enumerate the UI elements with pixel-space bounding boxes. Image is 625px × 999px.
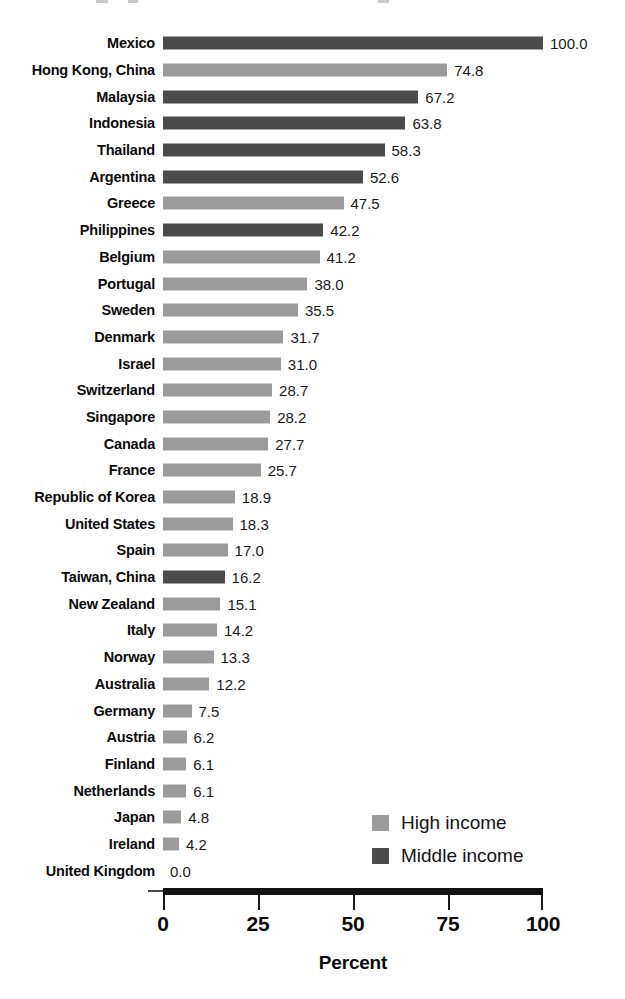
bar-high-income <box>163 437 268 450</box>
bar-row-label: Spain <box>117 542 155 558</box>
bar-row: Taiwan, China16.2 <box>0 564 625 591</box>
bar-high-income <box>163 197 344 210</box>
bar-row-label: Australia <box>95 676 155 692</box>
bar-value-label: 15.1 <box>227 595 256 612</box>
bar-value-label: 74.8 <box>454 62 483 79</box>
bar-value-label: 63.8 <box>412 115 441 132</box>
bar-value-label: 28.2 <box>277 408 306 425</box>
bar-row-label: Denmark <box>94 329 155 345</box>
bar-row-label: United Kingdom <box>46 863 155 879</box>
bar-row: Austria6.2 <box>0 724 625 751</box>
bar-high-income <box>163 357 281 370</box>
bar-row-label: Switzerland <box>77 382 155 398</box>
bar-row-label: Netherlands <box>73 783 155 799</box>
bar-row: Switzerland28.7 <box>0 377 625 404</box>
bar-row: United States18.3 <box>0 510 625 537</box>
bar-track <box>163 304 543 317</box>
bar-row: Australia12.2 <box>0 671 625 698</box>
bar-row-label: Austria <box>106 729 155 745</box>
bar-track <box>163 491 543 504</box>
bar-middle-income <box>163 117 405 130</box>
bar-row: Republic of Korea18.9 <box>0 484 625 511</box>
bar-row: Thailand58.3 <box>0 137 625 164</box>
chart-legend: High incomeMiddle income <box>372 806 612 872</box>
bar-row-label: Norway <box>104 649 155 665</box>
bar-row: Mexico100.0 <box>0 30 625 57</box>
bar-track <box>163 90 543 103</box>
bar-high-income <box>163 624 217 637</box>
bar-high-income <box>163 677 209 690</box>
bar-high-income <box>163 250 320 263</box>
axis-tick-label: 50 <box>342 912 365 936</box>
bar-track <box>163 784 543 797</box>
legend-item-high-income: High income <box>372 806 612 839</box>
bar-track <box>163 330 543 343</box>
bar-value-label: 0.0 <box>170 862 191 879</box>
bar-row-label: Ireland <box>109 836 155 852</box>
bar-value-label: 6.1 <box>193 755 214 772</box>
bar-track <box>163 144 543 157</box>
bar-track <box>163 410 543 423</box>
legend-label: Middle income <box>401 845 524 867</box>
bar-value-label: 47.5 <box>351 195 380 212</box>
bar-high-income <box>163 410 270 423</box>
bar-value-label: 12.2 <box>216 675 245 692</box>
bar-row: Norway13.3 <box>0 644 625 671</box>
bar-row-label: Hong Kong, China <box>32 62 155 78</box>
bar-high-income <box>163 464 261 477</box>
bar-track <box>163 37 543 50</box>
bar-row-label: Portugal <box>98 276 155 292</box>
bar-row: Italy14.2 <box>0 617 625 644</box>
bar-row-label: Argentina <box>89 169 155 185</box>
bar-track <box>163 517 543 530</box>
bar-value-label: 58.3 <box>392 142 421 159</box>
bar-row-label: Italy <box>127 622 155 638</box>
bar-value-label: 41.2 <box>327 248 356 265</box>
axis-title-percent: Percent <box>163 952 543 974</box>
bar-high-income <box>163 277 307 290</box>
bar-row: Portugal38.0 <box>0 270 625 297</box>
bar-value-label: 6.1 <box>193 782 214 799</box>
bar-middle-income <box>163 170 363 183</box>
bar-high-income <box>163 784 186 797</box>
axis-tick-label: 0 <box>157 912 168 936</box>
axis-tick-label: 75 <box>437 912 460 936</box>
bar-row: Belgium41.2 <box>0 244 625 271</box>
bar-track <box>163 437 543 450</box>
bar-row: Israel31.0 <box>0 350 625 377</box>
axis-tick <box>353 895 355 910</box>
bar-track <box>163 64 543 77</box>
bar-track <box>163 117 543 130</box>
bar-row: Greece47.5 <box>0 190 625 217</box>
bar-row: Spain17.0 <box>0 537 625 564</box>
bar-row-label: Thailand <box>97 142 155 158</box>
bar-value-label: 31.0 <box>288 355 317 372</box>
bar-row-label: Mexico <box>107 35 155 51</box>
bar-value-label: 17.0 <box>235 542 264 559</box>
bar-track <box>163 357 543 370</box>
legend-label: High income <box>401 812 507 834</box>
bar-middle-income <box>163 571 225 584</box>
bar-high-income <box>163 304 298 317</box>
bar-track <box>163 757 543 770</box>
cropped-header-artifact <box>0 0 625 6</box>
bar-row: Denmark31.7 <box>0 324 625 351</box>
axis-tick <box>163 895 165 910</box>
bar-track <box>163 624 543 637</box>
bar-value-label: 31.7 <box>290 328 319 345</box>
bar-row: Philippines42.2 <box>0 217 625 244</box>
bar-high-income <box>163 757 186 770</box>
bar-value-label: 13.3 <box>221 649 250 666</box>
bar-rows: Mexico100.0Hong Kong, China74.8Malaysia6… <box>0 30 625 884</box>
bar-row-label: Greece <box>107 195 155 211</box>
legend-item-middle-income: Middle income <box>372 839 612 872</box>
bar-high-income <box>163 384 272 397</box>
bar-value-label: 16.2 <box>232 569 261 586</box>
bar-track <box>163 731 543 744</box>
bar-high-income <box>163 704 192 717</box>
bar-value-label: 35.5 <box>305 302 334 319</box>
bar-row: Singapore28.2 <box>0 404 625 431</box>
bar-high-income <box>163 544 228 557</box>
bar-value-label: 25.7 <box>268 462 297 479</box>
bar-row: Canada27.7 <box>0 430 625 457</box>
